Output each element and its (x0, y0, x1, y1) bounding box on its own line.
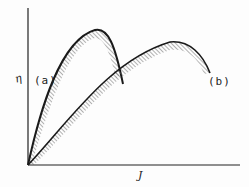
curve-a-label: (a) (34, 74, 57, 87)
curve-b (28, 42, 210, 165)
x-axis-label: J (138, 169, 142, 182)
efficiency-curve-diagram: η J (a) (b) (0, 0, 249, 187)
curve-b-label: (b) (208, 75, 231, 88)
curve-a-hatching (28, 30, 120, 165)
curve-b-hatching (28, 42, 210, 165)
diagram-canvas (0, 0, 249, 187)
